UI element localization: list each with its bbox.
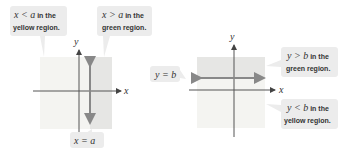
left-panel: x < a in the yellow region. x > a in the… [10,6,152,148]
callout-math: y < b [286,102,308,113]
yellow-region-left [40,57,90,129]
green-region-right [197,57,265,79]
inequality-regions-diagram: x < a in the yellow region. x > a in the… [0,0,351,162]
callout-x-greater-a: x > a in the green region. [97,6,152,57]
x-axis-label: x [123,85,129,96]
callout-text: green region. [102,24,146,32]
green-region-left [90,57,112,129]
yellow-region-right [197,79,265,128]
callout-math: x < a [13,9,35,20]
callout-text: green region. [286,65,330,73]
callout-text: yellow region. [13,24,60,32]
boundary-label: x = a [73,135,95,146]
y-axis-label: y [229,31,235,42]
callout-y-greater-b: y > b in the green region. [266,47,338,77]
y-axis-label: y [73,36,79,47]
callout-y-less-b: y < b in the yellow region. [266,99,338,129]
boundary-label: y = b [154,69,176,80]
callout-math: x > a [101,9,123,20]
callout-x-less-a: x < a in the yellow region. [10,6,67,57]
callout-math: y > b [286,50,308,61]
x-axis-label: x [278,84,284,95]
boundary-callout-left: x = a [70,129,104,148]
callout-text: yellow region. [284,117,331,125]
boundary-callout-right: y = b [150,66,186,82]
right-panel: y = b y > b in the green region. y < b i… [150,31,338,137]
